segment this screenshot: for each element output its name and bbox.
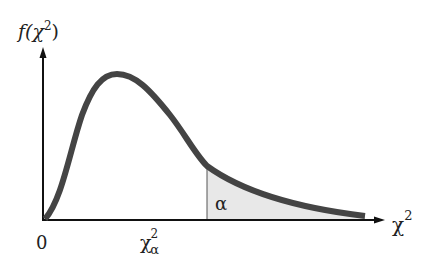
- origin-label: 0: [36, 232, 47, 253]
- critical-value-label: χ2α: [140, 227, 159, 257]
- density-curve: [45, 74, 365, 219]
- y-axis-arrow-icon: [40, 47, 47, 58]
- x-axis-label: χ2: [392, 208, 412, 237]
- y-axis-label: f(χ2): [16, 19, 59, 42]
- chi-square-chart: f(χ2) 0 χ2α α χ2: [0, 0, 437, 274]
- alpha-label: α: [215, 193, 227, 214]
- x-axis-arrow-icon: [374, 217, 385, 224]
